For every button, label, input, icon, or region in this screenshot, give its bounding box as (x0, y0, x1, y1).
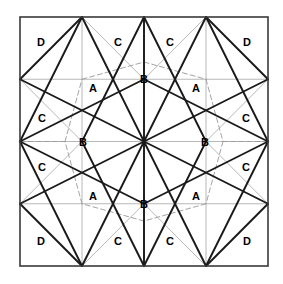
construction-line-6 (206, 79, 268, 141)
label-b-left: B (79, 137, 87, 148)
label-a-top-left: A (89, 83, 97, 94)
geometric-figure: DCCDBAACCBBCCAABDCCD (0, 0, 283, 284)
octagon-edge-0 (82, 62, 144, 79)
label-c-right-upper: C (242, 113, 250, 124)
edge-tl-diag (20, 17, 82, 79)
label-c-bottom-left: C (114, 236, 122, 247)
construction-line-5 (20, 142, 82, 204)
edge-br-diag (206, 204, 268, 266)
label-b-right: B (201, 137, 209, 148)
octagon-edge-2 (206, 79, 223, 141)
edge-bl-diag (20, 204, 82, 266)
octagon-edge-1 (144, 62, 206, 79)
construction-line-2 (82, 204, 144, 266)
label-c-top-left: C (114, 37, 122, 48)
label-d-top-left: D (37, 37, 45, 48)
octagon-edge-5 (82, 204, 144, 221)
label-c-right-lower: C (242, 162, 250, 173)
label-c-top-right: C (166, 37, 174, 48)
label-d-top-right: D (243, 37, 251, 48)
construction-line-7 (206, 142, 268, 204)
label-a-top-right: A (192, 83, 200, 94)
edge-tr-diag (206, 17, 268, 79)
construction-line-4 (20, 79, 82, 141)
octagon-edge-7 (65, 79, 82, 141)
label-d-bottom-left: D (37, 236, 45, 247)
octagon-edge-3 (206, 142, 223, 204)
label-c-left-lower: C (38, 162, 46, 173)
label-a-bottom-right: A (192, 191, 200, 202)
label-a-bottom-left: A (89, 191, 97, 202)
label-d-bottom-right: D (243, 236, 251, 247)
label-c-left-upper: C (38, 113, 46, 124)
octagon-edge-6 (65, 142, 82, 204)
octagon-edge-4 (144, 204, 206, 221)
construction-line-1 (144, 17, 206, 79)
label-c-bottom-right: C (166, 236, 174, 247)
label-b-bottom: B (140, 199, 148, 210)
label-b-top: B (140, 74, 148, 85)
construction-line-0 (82, 17, 144, 79)
construction-line-3 (144, 204, 206, 266)
